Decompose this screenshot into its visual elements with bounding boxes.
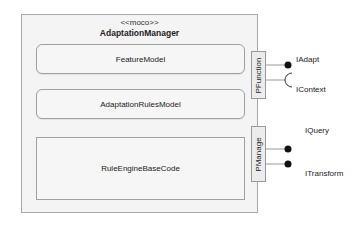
interface-icontext-label: IContext [296, 85, 326, 94]
port-pfunction[interactable]: PFunction [251, 51, 266, 99]
port-label: PFunction [254, 57, 263, 93]
required-interface-icon [285, 73, 292, 87]
interface-itransform-label: ITransform [305, 169, 343, 178]
interface-iadapt-label: IAdapt [296, 55, 319, 64]
interface-connectors [0, 0, 359, 227]
provided-interface-icon [285, 62, 292, 69]
provided-interface-icon [285, 146, 292, 153]
provided-interface-icon [285, 161, 292, 168]
port-pmanage[interactable]: PManage [251, 126, 266, 182]
port-label: PManage [254, 137, 263, 171]
interface-iquery-label: IQuery [305, 126, 329, 135]
